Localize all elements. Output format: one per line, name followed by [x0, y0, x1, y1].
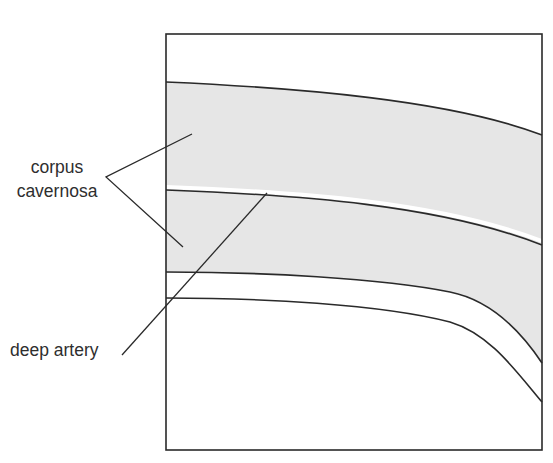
diagram-canvas: corpus cavernosa deep artery — [0, 0, 553, 463]
bottom-curve — [166, 298, 542, 402]
corpus-cavernosa-label-line2: cavernosa — [17, 181, 98, 201]
deep-artery-label: deep artery — [10, 340, 99, 360]
corpus-cavernosa-label-line1: corpus — [31, 157, 84, 177]
